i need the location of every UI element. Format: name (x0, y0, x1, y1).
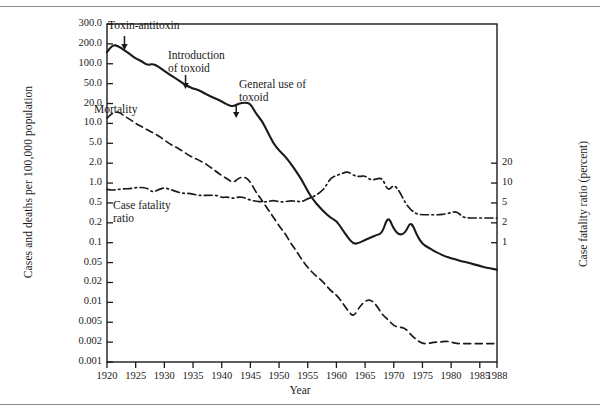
y-tick-label-left: 0.005 (50, 315, 102, 326)
y-tick-label-right: 1 (502, 236, 532, 247)
plot-frame (107, 24, 497, 362)
annotation-arrow-head (233, 112, 239, 118)
chart-figure: Cases and deaths per 100,000 population … (0, 0, 600, 412)
y-tick-label-left: 0.2 (50, 216, 102, 227)
y-tick-label-left: 100.0 (50, 57, 102, 68)
y-tick-label-left: 0.05 (50, 256, 102, 267)
y-tick-label-right: 2 (502, 216, 532, 227)
series-line-mortality (107, 112, 497, 343)
annotation-toxin-antitoxin: Toxin-antitoxin (108, 19, 179, 32)
y-tick-label-left: 200.0 (50, 37, 102, 48)
y-tick-label-right: 5 (502, 196, 532, 207)
y-tick-label-left: 300.0 (50, 17, 102, 28)
annotation-general-use-of-toxoid: General use oftoxoid (239, 78, 306, 103)
annotation-introduction-of-toxoid: Introductionof toxoid (168, 49, 225, 74)
y-tick-label-left: 1.0 (50, 176, 102, 187)
x-tick-label: 1988 (479, 370, 515, 381)
annotation-case-fatality-ratio-label: Case fatalityratio (113, 199, 171, 224)
y-tick-label-left: 0.01 (50, 295, 102, 306)
y-tick-label-left: 0.5 (50, 196, 102, 207)
y-tick-label-right: 10 (502, 176, 532, 187)
annotation-mortality-label: Mortality (94, 103, 137, 116)
y-tick-label-right: 20 (502, 156, 532, 167)
y-tick-label-left: 10.0 (50, 116, 102, 127)
y-tick-label-left: 2.0 (50, 156, 102, 167)
y-tick-label-left: 0.001 (50, 355, 102, 366)
y-tick-label-left: 0.1 (50, 236, 102, 247)
y-tick-label-left: 0.02 (50, 275, 102, 286)
y-tick-label-left: 50.0 (50, 77, 102, 88)
y-tick-label-left: 0.002 (50, 335, 102, 346)
y-tick-label-left: 5.0 (50, 136, 102, 147)
